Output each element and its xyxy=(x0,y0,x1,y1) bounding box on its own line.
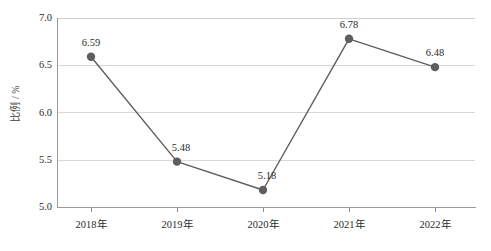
point-label-2022: 6.48 xyxy=(405,47,465,58)
line-chart: 比例 / % 7.0 6.5 6.0 5.5 5.0 2018年 2019年 2… xyxy=(0,0,491,251)
point-label-2021: 6.78 xyxy=(319,19,379,30)
point-label-2019: 5.48 xyxy=(151,142,211,153)
point-label-2018: 6.59 xyxy=(61,37,121,48)
point-label-2020: 5.18 xyxy=(237,170,297,181)
